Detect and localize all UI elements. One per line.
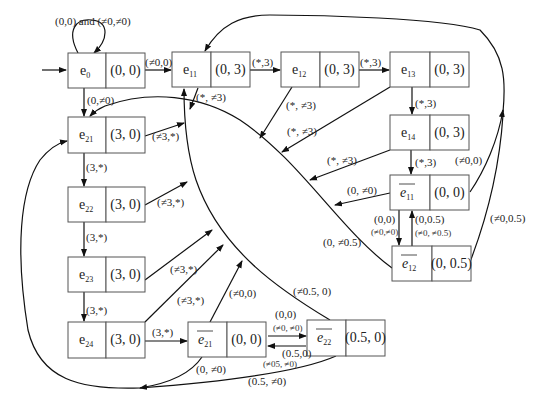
label-e14-down: (*, ≠3) — [327, 154, 357, 167]
label-eb11-left: (0, ≠0) — [347, 184, 377, 197]
label-e24-eb21: (3,*) — [152, 326, 173, 339]
state-value: (0, 0) — [110, 63, 141, 79]
label-eb12-eb11-b: (≠0, ≠0.5) — [415, 228, 451, 238]
label-e21-e22: (3,*) — [86, 161, 107, 174]
state-e13[interactable]: e13 (0, 3) — [390, 52, 469, 87]
state-value: (0, 3) — [215, 62, 246, 78]
state-value: (3, 0) — [110, 127, 141, 143]
label-e11-down: (*, ≠3) — [196, 91, 226, 104]
state-e-bar-21[interactable]: e21 (0, 0) — [188, 322, 266, 357]
label-eb21-eb22-b: (≠0, ≠0) — [273, 323, 302, 333]
label-eb12-eb11-a: (0,0.5) — [415, 213, 445, 226]
label-e12-down: (*, ≠3) — [286, 99, 316, 112]
label-e11-e12: (*,3) — [252, 56, 273, 69]
edge-eb12-up — [470, 115, 503, 262]
state-e23[interactable]: e23 (3, 0) — [68, 257, 145, 292]
label-e22-e23: (3,*) — [86, 231, 107, 244]
state-e21[interactable]: e21 (3, 0) — [68, 117, 145, 153]
state-value: (3, 0) — [110, 332, 141, 348]
state-e0[interactable]: e0 (0, 0) — [68, 53, 145, 88]
state-value: (0.5, 0) — [345, 330, 386, 346]
state-e24[interactable]: e24 (3, 0) — [68, 322, 145, 358]
state-e12[interactable]: e12 (0, 3) — [281, 52, 359, 87]
state-value: (3, 0) — [110, 197, 141, 213]
label-eb21-eb22-a: (0,0) — [275, 308, 296, 321]
label-e23-right: (≠3,*) — [170, 263, 197, 276]
state-value: (0, 3) — [324, 62, 355, 78]
state-value: (0, 0) — [231, 332, 262, 348]
state-diagram: e0 (0, 0) e11 (0, 3) e12 (0, 3) e13 (0, … — [0, 0, 542, 409]
edge-e24-right — [145, 245, 223, 322]
label-eb12-up: (≠0,0.5) — [490, 212, 526, 225]
label-eb22-up: (≠0.5, 0) — [293, 285, 331, 298]
label-e0-e21: (0,≠0) — [87, 94, 114, 107]
state-e11[interactable]: e11 (0, 3) — [172, 52, 250, 87]
state-value: (0, 3) — [434, 125, 465, 141]
label-eb11-up: (≠0,0) — [455, 154, 482, 167]
label-eb11-eb12-a: (0,0) — [374, 213, 395, 226]
state-e14[interactable]: e14 (0, 3) — [390, 115, 469, 150]
label-e12-e13: (*,3) — [360, 56, 381, 69]
state-value: (0, 0) — [434, 185, 465, 201]
label-e24-right: (≠3,*) — [177, 294, 204, 307]
label-e13-e14: (*,3) — [415, 97, 436, 110]
label-e13-down: (*, ≠3) — [287, 125, 317, 138]
label-eb21-up: (≠0,0) — [229, 287, 256, 300]
state-value: (0, 3) — [434, 62, 465, 78]
label-e0-self: (0,0) and (≠0,≠0) — [55, 15, 131, 28]
state-e-bar-22[interactable]: e22 (0.5, 0) — [307, 320, 386, 356]
edge-eb11-up — [470, 110, 503, 192]
state-e-bar-11[interactable]: e11 (0, 0) — [390, 175, 469, 210]
state-e-bar-12[interactable]: e12 (0, 0.5) — [392, 246, 472, 281]
state-value: (3, 0) — [110, 267, 141, 283]
label-e14-eb11: (*,3) — [415, 156, 436, 169]
label-eb21-down: (0, ≠0) — [196, 363, 226, 376]
label-eb11-eb12-b: (≠0,≠0) — [371, 227, 398, 237]
state-e22[interactable]: e22 (3, 0) — [68, 187, 145, 222]
label-e22-right: (≠3,*) — [157, 196, 184, 209]
label-e23-e24: (3,*) — [86, 304, 107, 317]
label-e0-e11: (≠0,0) — [145, 56, 172, 69]
label-eb22-eb21-b: (≠05, ≠0) — [263, 359, 297, 369]
label-eb12-left: (0, ≠0.5) — [323, 236, 361, 249]
state-value: (0, 0.5) — [431, 256, 472, 272]
edge-e13-down — [282, 87, 390, 152]
label-eb22-down: (0.5, ≠0) — [248, 375, 286, 388]
label-e21-right: (≠3,*) — [152, 130, 179, 143]
